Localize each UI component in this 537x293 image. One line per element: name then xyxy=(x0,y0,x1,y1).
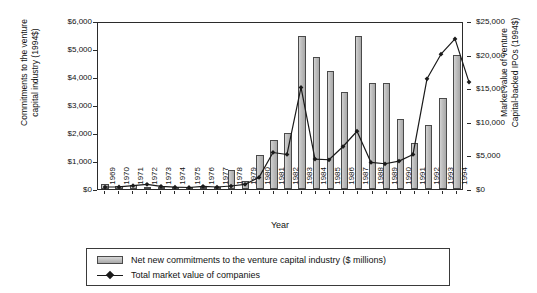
x-tick-label-1989: 1989 xyxy=(390,167,399,195)
x-tick-label-1980: 1980 xyxy=(263,167,272,195)
x-tickmark xyxy=(259,191,260,194)
x-tickmark xyxy=(400,191,401,194)
x-tickmark xyxy=(189,191,190,194)
x-tickmark xyxy=(357,191,358,194)
x-tickmark xyxy=(245,191,246,194)
x-tick-label-1981: 1981 xyxy=(277,167,286,195)
x-tick-label-1992: 1992 xyxy=(432,167,441,195)
x-tick-label-1972: 1972 xyxy=(150,167,159,195)
line-marker-1993 xyxy=(439,52,444,57)
x-tickmark xyxy=(343,191,344,194)
x-tickmark xyxy=(456,191,457,194)
x-tickmark xyxy=(132,191,133,194)
x-tickmark xyxy=(372,191,373,194)
legend-item-bars: Net new commitments to the venture capit… xyxy=(97,253,386,267)
x-tickmark xyxy=(146,191,147,194)
line-series xyxy=(98,23,462,189)
y-axis-left-title: Commitments to the venture capital indus… xyxy=(19,0,40,158)
x-tickmark xyxy=(231,191,232,194)
x-tick-label-1987: 1987 xyxy=(361,167,370,195)
y-right-tick-label: $15,000 xyxy=(476,84,524,94)
line-marker-1992 xyxy=(425,76,430,81)
x-tickmark xyxy=(315,191,316,194)
y-right-tickmark xyxy=(467,89,471,90)
x-tick-label-1985: 1985 xyxy=(333,167,342,195)
line-diamond-swatch-icon xyxy=(97,271,123,279)
x-tick-label-1988: 1988 xyxy=(376,167,385,195)
x-tickmark xyxy=(301,191,302,194)
chart-legend: Net new commitments to the venture capit… xyxy=(86,248,450,286)
x-tick-label-1979: 1979 xyxy=(249,167,258,195)
x-tickmark xyxy=(104,191,105,194)
y-right-tickmark xyxy=(467,123,471,124)
y-axis-left-ticks: $0$1,000$2,000$3,000$4,000$5,000$6,000 xyxy=(46,22,92,190)
y-right-tick-label: $10,000 xyxy=(476,118,524,128)
x-tick-label-1983: 1983 xyxy=(305,167,314,195)
x-tick-label-1975: 1975 xyxy=(193,167,202,195)
x-tick-label-1978: 1978 xyxy=(235,167,244,195)
x-tick-label-1990: 1990 xyxy=(404,167,413,195)
chart-figure: Commitments to the venture capital indus… xyxy=(0,0,537,293)
y-right-tick-label: $20,000 xyxy=(476,51,524,61)
x-tickmark xyxy=(174,191,175,194)
y-right-tickmark xyxy=(467,22,471,23)
y-axis-right-ticks: $0$5,000$10,000$15,000$20,000$25,000 xyxy=(468,22,518,190)
x-tick-label-1969: 1969 xyxy=(108,167,117,195)
x-tick-label-1986: 1986 xyxy=(347,167,356,195)
x-tick-label-1982: 1982 xyxy=(291,167,300,195)
x-tickmark xyxy=(287,191,288,194)
y-right-tickmark xyxy=(467,156,471,157)
y-left-tick-label: $2,000 xyxy=(48,129,92,139)
x-axis-title: Year xyxy=(205,220,355,231)
y-left-tick-label: $3,000 xyxy=(48,101,92,111)
x-tickmark xyxy=(442,191,443,194)
plot-inner xyxy=(98,23,462,189)
y-left-tick-label: $6,000 xyxy=(48,17,92,27)
x-tick-label-1994: 1994 xyxy=(460,167,469,195)
x-tickmark xyxy=(217,191,218,194)
line-marker-1972 xyxy=(145,182,150,187)
x-tickmark xyxy=(160,191,161,194)
x-tick-label-1991: 1991 xyxy=(418,167,427,195)
y-right-tick-label: $5,000 xyxy=(476,151,524,161)
y-left-tick-label: $0 xyxy=(48,185,92,195)
legend-label-bars: Net new commitments to the venture capit… xyxy=(131,255,386,265)
x-tick-label-1974: 1974 xyxy=(178,167,187,195)
legend-item-line: Total market value of companies xyxy=(97,268,260,282)
y-right-tickmark xyxy=(467,56,471,57)
y-left-tick-label: $5,000 xyxy=(48,45,92,55)
x-tick-label-1970: 1970 xyxy=(122,167,131,195)
y-right-tick-label: $0 xyxy=(476,185,524,195)
x-tickmark xyxy=(329,191,330,194)
y-left-tick-label: $1,000 xyxy=(48,157,92,167)
line-marker-1994 xyxy=(453,37,458,42)
x-tick-label-1973: 1973 xyxy=(164,167,173,195)
plot-area xyxy=(97,22,463,190)
y-left-tick-label: $4,000 xyxy=(48,73,92,83)
x-tick-label-1984: 1984 xyxy=(319,167,328,195)
x-tick-label-1977: 1977 xyxy=(221,167,230,195)
x-tick-label-1971: 1971 xyxy=(136,167,145,195)
legend-label-line: Total market value of companies xyxy=(131,270,260,280)
x-tickmark xyxy=(386,191,387,194)
x-tickmark xyxy=(273,191,274,194)
x-tickmark xyxy=(118,191,119,194)
x-tickmark xyxy=(428,191,429,194)
x-tick-label-1993: 1993 xyxy=(446,167,455,195)
x-axis-ticks: 1969197019711972197319741975197619771978… xyxy=(97,191,463,221)
x-tick-label-1976: 1976 xyxy=(207,167,216,195)
y-right-tick-label: $25,000 xyxy=(476,17,524,27)
x-tickmark xyxy=(414,191,415,194)
x-tickmark xyxy=(203,191,204,194)
bar-swatch-icon xyxy=(97,256,123,264)
